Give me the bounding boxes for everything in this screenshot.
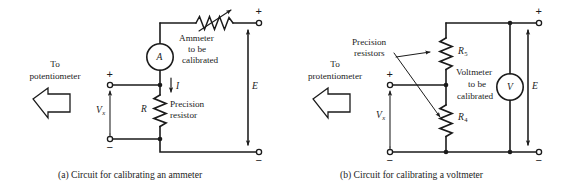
panel-a-ammeter-symbol: A xyxy=(157,52,163,62)
panel-b-resistor-top-label: R5 xyxy=(458,46,467,56)
panel-b-resistor-top-subscript: 5 xyxy=(464,50,467,57)
panel-b-caption: (b) Circuit for calibrating a voltmeter xyxy=(340,170,483,180)
panel-a-vx-symbol: V xyxy=(96,104,102,115)
panel-b-voltmeter-symbol: V xyxy=(507,82,513,92)
panel-a-resistor-note-line2: resistor xyxy=(170,111,197,121)
panel-a-meter-note-line2: to be xyxy=(188,45,206,55)
panel-a-vx-subscript: x xyxy=(102,109,105,116)
panel-a-plus-right: + xyxy=(256,6,262,18)
panel-b-pointer-top xyxy=(396,52,430,57)
panel-a-wire-bottom-right xyxy=(160,139,256,152)
panel-b-resistor-bottom-label: R4 xyxy=(458,112,467,122)
panel-a-supply-terminal-plus xyxy=(256,20,261,25)
panel-a-minus-left: − xyxy=(107,142,113,154)
panel-b-vx-subscript: x xyxy=(382,114,385,121)
panel-a-meter-note-line1: Ammeter xyxy=(179,34,214,44)
panel-b-supply-terminal-plus xyxy=(536,20,541,25)
panel-a-resistor xyxy=(154,95,166,127)
panel-b-resistor-top-symbol: R xyxy=(458,45,464,56)
panel-b-supply-label: E xyxy=(532,81,538,91)
panel-b-node-vm-top xyxy=(508,21,513,26)
panel-a-meter-note-line3: calibrated xyxy=(182,56,218,66)
panel-b-source-label-line1: To xyxy=(286,60,384,70)
panel-b-precision-note-line1: Precision xyxy=(352,38,386,48)
panel-b-resistor-bottom-subscript: 4 xyxy=(464,116,467,123)
panel-b-vx-label: Vx xyxy=(376,110,385,120)
panel-b-plus-right: + xyxy=(536,6,542,18)
panel-b-resistor-bottom-symbol: R xyxy=(458,111,464,122)
calibration-circuits-figure: To potentiometer A Ammeter to be calibra… xyxy=(0,0,562,187)
panel-b-source-label-line2: protentiometer xyxy=(282,72,388,82)
panel-a-minus-right: − xyxy=(256,155,262,167)
panel-b-minus-right: − xyxy=(536,155,542,167)
panel-b-meter-note-line3: calibrated xyxy=(457,92,493,102)
panel-b-resistor-bottom xyxy=(440,105,452,137)
panel-a-resistor-symbol: R xyxy=(141,104,147,114)
panel-a-resistor-note-line1: Precision xyxy=(170,100,204,110)
panel-a-supply-label: E xyxy=(252,81,258,91)
panel-a-source-arrow xyxy=(33,88,70,118)
panel-b-meter-note-line1: Voltmeter xyxy=(456,68,492,78)
panel-a-current-label: I xyxy=(176,81,179,91)
panel-b-meter-note-line2: to be xyxy=(468,80,486,90)
panel-a-source-label-line2: potentiometer xyxy=(6,72,104,82)
panel-b-precision-note-line2: resistors xyxy=(354,49,385,59)
panel-b-plus-left: + xyxy=(387,69,393,81)
panel-b-resistor-top xyxy=(440,38,452,70)
panel-b-vx-symbol: V xyxy=(376,109,382,120)
panel-a-vx-label: Vx xyxy=(96,105,105,115)
panel-a-plus-left: + xyxy=(107,69,113,81)
panel-a-caption: (a) Circuit for calibrating an ammeter xyxy=(58,170,202,180)
panel-b-minus-left: − xyxy=(387,155,393,167)
panel-b-source-arrow xyxy=(313,88,350,118)
panel-a-source-label-line1: To xyxy=(6,60,104,70)
panel-a-rheostat xyxy=(196,17,233,30)
